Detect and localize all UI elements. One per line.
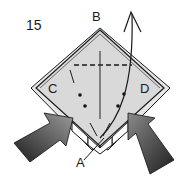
push-arrow-left-icon — [14, 113, 73, 162]
point-label-d: D — [140, 82, 149, 95]
point-label-b: B — [92, 10, 101, 23]
point-label-a: A — [76, 156, 85, 169]
push-arrow-right-icon — [128, 113, 174, 174]
step-number: 15 — [26, 18, 42, 32]
origami-diagram: 15 B C D A — [0, 0, 189, 181]
point-label-c: C — [48, 82, 57, 95]
